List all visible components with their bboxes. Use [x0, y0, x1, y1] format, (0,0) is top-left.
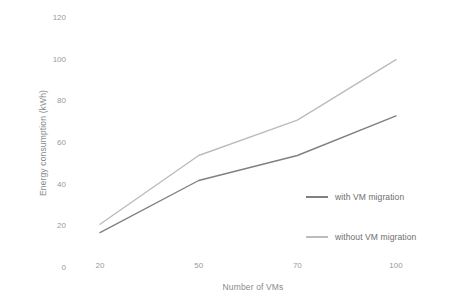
x-axis-tick-label: 50 — [169, 262, 229, 270]
y-axis-tick-label: 0 — [22, 264, 66, 272]
legend-label: without VM migration — [335, 232, 416, 242]
legend-item: with VM migration — [306, 190, 456, 204]
legend-item: without VM migration — [306, 230, 456, 244]
y-axis-tick-label: 100 — [22, 56, 66, 64]
x-axis-tick-label: 20 — [70, 262, 130, 270]
legend-line-swatch — [306, 196, 328, 198]
legend-line-swatch — [306, 236, 328, 238]
y-axis-tick-label: 60 — [22, 139, 66, 147]
legend-label: with VM migration — [335, 192, 404, 202]
chart-legend: with VM migrationwithout VM migration — [306, 190, 456, 270]
y-axis-tick-labels: 020406080100120 — [18, 0, 66, 308]
y-axis-tick-label: 40 — [22, 181, 66, 189]
y-axis-tick-label: 120 — [22, 14, 66, 22]
x-axis-title: Number of VMs — [74, 282, 432, 292]
y-axis-tick-label: 20 — [22, 222, 66, 230]
y-axis-tick-label: 80 — [22, 97, 66, 105]
energy-consumption-line-chart: Energy consumption (kWh) 020406080100120… — [0, 0, 458, 308]
